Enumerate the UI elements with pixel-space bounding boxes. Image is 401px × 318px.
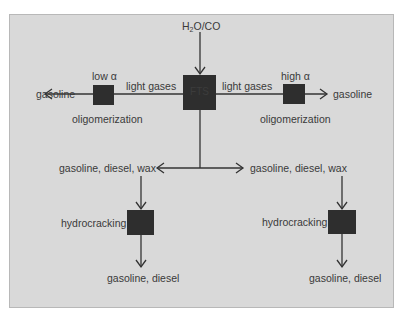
left-oligomerization-label: oligomerization: [72, 113, 143, 125]
left-hydrocracking-label: hydrocracking: [61, 217, 126, 229]
fts-label: FTS: [183, 86, 216, 97]
right-gasoline-output-label: gasoline: [333, 88, 372, 100]
left-oligomerization-box: [93, 85, 114, 105]
right-hydrocracking-label: hydrocracking: [262, 216, 327, 228]
low-alpha-label: low α: [92, 70, 117, 82]
connector-lines: [0, 0, 401, 318]
left-output-label: gasoline, diesel: [107, 272, 179, 284]
input-label-h: H: [182, 20, 190, 32]
left-feed-label: gasoline, diesel, wax: [59, 162, 156, 174]
right-oligomerization-box: [283, 84, 305, 104]
input-label-h2o-co: H2O/CO: [182, 20, 220, 36]
input-label-rest: O/CO: [194, 20, 221, 32]
right-light-gases-label: light gases: [222, 80, 272, 92]
right-hydrocracking-box: [328, 210, 356, 234]
right-output-label: gasoline, diesel: [309, 272, 381, 284]
fts-reactor-box: FTS: [183, 75, 216, 110]
right-oligomerization-label: oligomerization: [260, 113, 331, 125]
left-light-gases-label: light gases: [126, 80, 176, 92]
right-feed-label: gasoline, diesel, wax: [250, 162, 347, 174]
left-gasoline-output-label: gasoline: [36, 88, 75, 100]
left-hydrocracking-box: [127, 210, 154, 235]
high-alpha-label: high α: [281, 70, 310, 82]
